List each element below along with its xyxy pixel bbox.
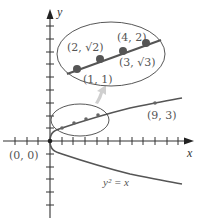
parabola-diagram: x y (0, 0) bbox=[0, 0, 198, 219]
point-9-3 bbox=[153, 101, 157, 105]
inset-point-2-sqrt2 bbox=[96, 55, 104, 63]
point-2-sqrt2 bbox=[72, 121, 76, 125]
y-axis: y bbox=[46, 5, 63, 218]
origin-label: (0, 0) bbox=[9, 149, 39, 162]
inset-label-2-sqrt2: (2, √2) bbox=[67, 41, 104, 54]
point-4-2 bbox=[96, 113, 100, 117]
origin-point bbox=[48, 139, 53, 144]
inset-label-4-2: (4, 2) bbox=[117, 31, 147, 44]
inset-magnified-view: (2, √2) (4, 2) (3, √3) (1, 1) bbox=[57, 22, 165, 86]
x-axis-label: x bbox=[186, 146, 193, 160]
inset-point-1-1 bbox=[73, 65, 81, 73]
equation-label: y² = x bbox=[102, 176, 129, 188]
magnify-arrow-icon bbox=[95, 85, 106, 104]
inset-point-3-sqrt3 bbox=[119, 47, 127, 55]
point-1-1 bbox=[60, 126, 64, 130]
point-9-3-label: (9, 3) bbox=[147, 109, 177, 122]
y-axis-label: y bbox=[56, 5, 63, 19]
x-axis-arrow-icon bbox=[184, 138, 194, 145]
zoom-region-ellipse bbox=[51, 104, 109, 136]
inset-label-1-1: (1, 1) bbox=[83, 73, 113, 86]
inset-label-3-sqrt3: (3, √3) bbox=[119, 56, 156, 69]
point-3-sqrt3 bbox=[84, 117, 88, 121]
parabola-curve bbox=[50, 72, 186, 184]
y-axis-arrow-icon bbox=[47, 9, 54, 19]
